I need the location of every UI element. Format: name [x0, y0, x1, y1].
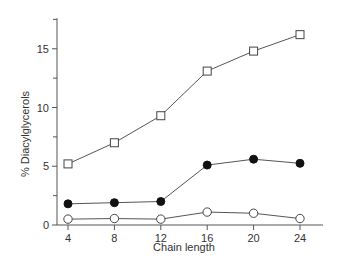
x-tick-label: 24: [294, 232, 306, 244]
square-marker: [296, 31, 304, 39]
x-tick-label: 20: [247, 232, 259, 244]
open-circle-marker: [157, 215, 165, 223]
series-line: [68, 35, 300, 164]
square-marker: [64, 160, 72, 168]
y-axis-title: % Diacylglycerols: [19, 90, 31, 177]
y-tick-label: 15: [37, 43, 49, 55]
square-marker: [250, 47, 258, 55]
axes: 4812162024051015: [37, 18, 323, 244]
series-line: [68, 159, 300, 204]
x-axis-title: Chain length: [153, 241, 215, 253]
filled-circle-marker: [203, 161, 211, 169]
open-circle-marker: [110, 214, 118, 222]
x-tick-label: 8: [111, 232, 117, 244]
filled-circle-marker: [110, 199, 118, 207]
filled-circle-marker: [296, 159, 304, 167]
y-tick-label: 5: [43, 160, 49, 172]
square-marker: [157, 112, 165, 120]
filled-circle-marker: [64, 200, 72, 208]
open-circle-marker: [249, 209, 257, 217]
x-tick-label: 4: [65, 232, 71, 244]
series-circle-open: [64, 208, 304, 223]
line-chart: 4812162024051015 Chain length % Diacylgl…: [0, 0, 338, 268]
y-tick-label: 0: [43, 219, 49, 231]
open-circle-marker: [203, 208, 211, 216]
filled-circle-marker: [250, 155, 258, 163]
filled-circle-marker: [157, 198, 165, 206]
series-group: [64, 31, 304, 224]
y-tick-label: 10: [37, 102, 49, 114]
series-line: [68, 212, 300, 219]
series-square-open: [64, 31, 304, 168]
square-marker: [203, 67, 211, 75]
square-marker: [110, 139, 118, 147]
open-circle-marker: [64, 215, 72, 223]
open-circle-marker: [296, 214, 304, 222]
series-circle-filled: [64, 155, 304, 208]
